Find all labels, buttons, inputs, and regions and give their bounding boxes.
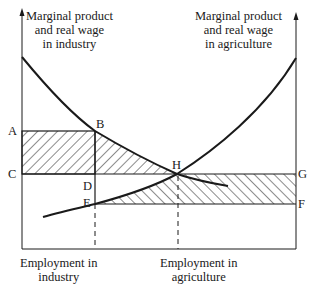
bottom-right-label-line-1: Employment in: [160, 256, 237, 270]
bottom-left-label: Employment in industry: [20, 256, 97, 284]
right-axis-label-line-3: in agriculture: [195, 37, 282, 51]
left-axis-label-line-2: and real wage: [26, 23, 113, 37]
point-label-e: E: [83, 197, 91, 210]
right-axis-label-line-2: and real wage: [195, 23, 282, 37]
point-label-h: H: [172, 159, 181, 172]
bottom-right-label-line-2: agriculture: [160, 270, 237, 284]
point-label-d: D: [83, 180, 92, 193]
right-axis-label: Marginal product and real wage in agricu…: [195, 9, 282, 51]
bottom-right-label: Employment in agriculture: [160, 256, 237, 284]
point-label-g: G: [298, 168, 307, 181]
right-axis-arrow-icon: [294, 12, 299, 20]
shaded-rectangle-abdc: [22, 131, 95, 174]
point-label-c: C: [8, 168, 16, 181]
point-label-a: A: [8, 125, 17, 138]
left-axis-label-line-1: Marginal product: [26, 9, 113, 23]
point-label-b: B: [96, 118, 104, 131]
bottom-left-label-line-1: Employment in: [20, 256, 97, 270]
right-axis-label-line-1: Marginal product: [195, 9, 282, 23]
bottom-left-label-line-2: industry: [20, 270, 97, 284]
left-axis-label: Marginal product and real wage in indust…: [26, 9, 113, 51]
left-axis-label-line-3: in industry: [26, 37, 113, 51]
left-axis-arrow-icon: [20, 8, 25, 16]
point-label-f: F: [298, 198, 305, 211]
